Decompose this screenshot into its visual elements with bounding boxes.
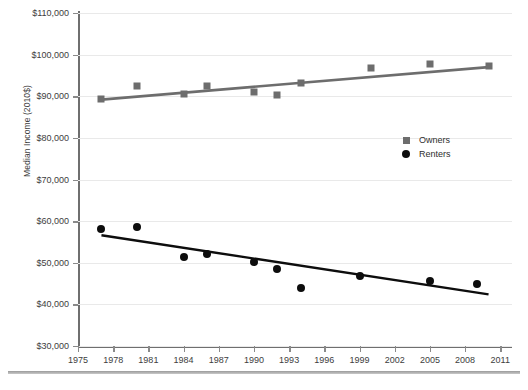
x-tick-label: 2002	[385, 355, 405, 365]
data-point	[274, 92, 281, 99]
x-tick-mark	[113, 346, 114, 352]
data-point	[133, 82, 140, 89]
x-tick-label: 1993	[279, 355, 299, 365]
x-tick-label: 1999	[349, 355, 369, 365]
x-tick-label: 2008	[455, 355, 475, 365]
x-tick-label: 2005	[420, 355, 440, 365]
data-point	[97, 225, 105, 233]
x-tick-mark	[219, 346, 220, 352]
data-point	[273, 265, 281, 273]
trendline	[101, 235, 488, 294]
y-tick-label: $100,000	[31, 50, 69, 60]
x-tick-mark	[148, 346, 149, 352]
y-tick-label: $80,000	[36, 133, 69, 143]
x-tick-label: 1987	[209, 355, 229, 365]
x-tick-mark	[500, 346, 501, 352]
data-point	[98, 95, 105, 102]
data-point	[133, 223, 141, 231]
x-tick-mark	[360, 346, 361, 352]
x-tick-mark	[324, 346, 325, 352]
gridline	[78, 346, 512, 347]
x-tick-mark	[78, 346, 79, 352]
data-point	[485, 62, 492, 69]
data-point	[180, 90, 187, 97]
x-tick-mark	[430, 346, 431, 352]
y-tick-label: $40,000	[36, 299, 69, 309]
x-tick-label: 1981	[138, 355, 158, 365]
legend-label-owners: Owners	[419, 135, 450, 145]
legend-label-renters: Renters	[419, 149, 451, 159]
x-tick-label: 1996	[314, 355, 334, 365]
x-tick-mark	[395, 346, 396, 352]
y-tick-label: $90,000	[36, 91, 69, 101]
data-point	[426, 277, 434, 285]
x-tick-label: 1990	[244, 355, 264, 365]
x-tick-label: 1984	[174, 355, 194, 365]
x-tick-label: 2011	[491, 355, 510, 365]
trendline	[101, 67, 488, 99]
data-point	[356, 272, 364, 280]
legend-circle-icon	[399, 150, 413, 158]
trendlines	[78, 13, 512, 346]
data-point	[203, 250, 211, 258]
x-tick-mark	[289, 346, 290, 352]
y-tick-label: $110,000	[32, 8, 69, 18]
legend-item-renters: Renters	[399, 147, 451, 161]
x-tick-mark	[184, 346, 185, 352]
data-point	[250, 258, 258, 266]
data-point	[297, 284, 305, 292]
data-point	[473, 280, 481, 288]
x-tick-label: 1978	[103, 355, 123, 365]
data-point	[250, 89, 257, 96]
data-point	[368, 64, 375, 71]
chart-legend: Owners Renters	[399, 133, 451, 161]
y-tick-label: $60,000	[36, 216, 69, 226]
chart-figure: Median Income (2010$) $30,000$40,000$50,…	[0, 0, 528, 390]
y-axis-title: Median Income (2010$)	[22, 66, 32, 196]
data-point	[426, 60, 433, 67]
x-tick-mark	[254, 346, 255, 352]
legend-square-icon	[399, 137, 413, 144]
y-tick-label: $30,000	[36, 341, 69, 351]
legend-item-owners: Owners	[399, 133, 451, 147]
data-point	[204, 83, 211, 90]
plot-area: $30,000$40,000$50,000$60,000$70,000$80,0…	[78, 13, 512, 346]
x-tick-label: 1975	[68, 355, 88, 365]
footer-divider	[8, 371, 520, 374]
data-point	[180, 253, 188, 261]
y-tick-label: $50,000	[36, 258, 69, 268]
x-tick-mark	[465, 346, 466, 352]
y-tick-label: $70,000	[36, 175, 69, 185]
data-point	[297, 79, 304, 86]
